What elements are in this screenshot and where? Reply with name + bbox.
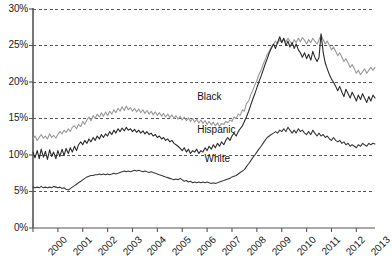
y-tick-label: 0%: [0, 222, 28, 233]
y-tick-label: 20%: [0, 76, 28, 87]
y-tick-label: 10%: [0, 149, 28, 160]
y-tick-label: 30%: [0, 3, 28, 14]
y-tick-label: 25%: [0, 39, 28, 50]
data-series-group: [33, 34, 375, 190]
series-label-hispanic: Hispanic: [197, 124, 235, 135]
series-label-black: Black: [197, 91, 221, 102]
series-label-white: White: [205, 153, 231, 164]
y-tick-label: 15%: [0, 112, 28, 123]
y-tick-label: 5%: [0, 185, 28, 196]
